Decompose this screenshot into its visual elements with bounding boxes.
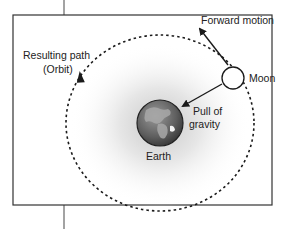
label-pull-of: Pull of bbox=[193, 105, 222, 117]
label-resulting-path: Resulting path bbox=[23, 49, 90, 61]
earth-icon bbox=[137, 100, 183, 146]
label-forward-motion: Forward motion bbox=[201, 14, 274, 26]
label-gravity: gravity bbox=[189, 118, 221, 130]
label-earth: Earth bbox=[146, 150, 171, 162]
label-orbit: (Orbit) bbox=[43, 63, 73, 75]
moon-icon bbox=[222, 67, 244, 89]
label-moon: Moon bbox=[249, 72, 275, 84]
orbit-diagram: Forward motion Moon Resulting path (Orbi… bbox=[0, 0, 298, 229]
